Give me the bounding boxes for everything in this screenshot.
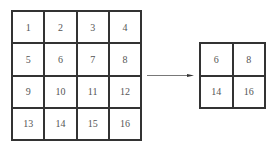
input-cell: 15 bbox=[77, 108, 109, 140]
output-cell: 8 bbox=[233, 43, 266, 76]
input-cell: 10 bbox=[44, 76, 76, 108]
input-matrix-4x4: 1 2 3 4 5 6 7 8 9 10 11 12 13 14 15 16 bbox=[11, 10, 142, 141]
input-cell: 14 bbox=[44, 108, 76, 140]
input-cell: 9 bbox=[12, 76, 44, 108]
input-cell: 12 bbox=[109, 76, 141, 108]
input-cell: 5 bbox=[12, 43, 44, 75]
input-cell: 2 bbox=[44, 11, 76, 43]
input-cell: 13 bbox=[12, 108, 44, 140]
output-cell: 6 bbox=[200, 43, 233, 76]
input-cell: 8 bbox=[109, 43, 141, 75]
right-arrow-icon bbox=[147, 74, 194, 77]
input-cell: 3 bbox=[77, 11, 109, 43]
input-cell: 1 bbox=[12, 11, 44, 43]
output-matrix-2x2: 6 8 14 16 bbox=[199, 42, 266, 109]
input-cell: 4 bbox=[109, 11, 141, 43]
input-cell: 16 bbox=[109, 108, 141, 140]
input-cell: 7 bbox=[77, 43, 109, 75]
input-cell: 11 bbox=[77, 76, 109, 108]
output-cell: 14 bbox=[200, 76, 233, 109]
input-cell: 6 bbox=[44, 43, 76, 75]
output-cell: 16 bbox=[233, 76, 266, 109]
